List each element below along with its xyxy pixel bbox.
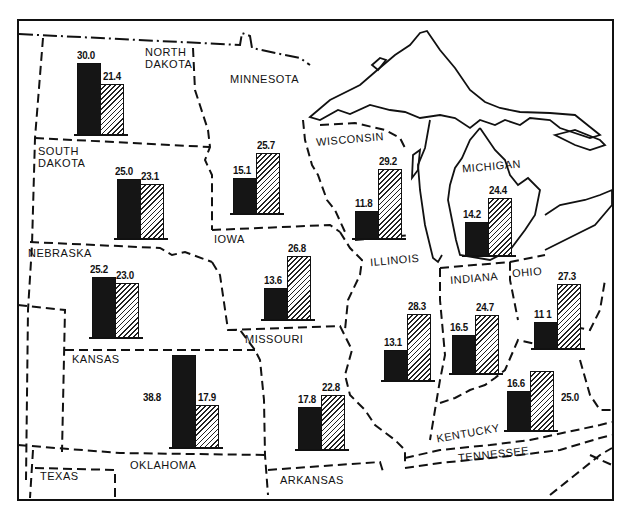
label-south-dakota: SOUTH DAKOTA [38,145,85,169]
bar-baseline [462,255,516,257]
value-solid: 15.1 [233,164,251,176]
label-texas: TEXAS [40,470,79,482]
bar-solid [355,211,379,239]
bar-solid [264,288,288,320]
bar-hatched [195,405,219,448]
value-solid: 16.6 [507,377,525,389]
label-iowa: IOWA [214,233,245,245]
value-hatched: 26.8 [288,242,306,254]
bar-hatched [557,284,581,349]
bar-hatched [140,184,164,239]
value-hatched: 29.2 [379,155,397,167]
bar-baseline [295,449,349,451]
value-hatched: 23.0 [116,269,134,281]
bar-solid [298,407,322,450]
value-hatched: 21.4 [103,70,121,82]
bar-baseline [261,319,315,321]
value-hatched: 27.3 [558,270,576,282]
bar-solid [452,335,476,374]
bar-baseline [504,430,558,432]
label-oklahoma: OKLAHOMA [130,459,196,471]
value-hatched: 22.8 [322,381,340,393]
value-solid: 30.0 [77,49,95,61]
bar-solid [465,222,489,256]
bar-hatched [100,84,124,135]
bar-baseline [381,380,435,382]
bar-baseline [230,213,284,215]
bar-solid [384,350,408,381]
label-arkansas: ARKANSAS [280,474,344,486]
bar-hatched [287,256,311,320]
value-hatched: 23.1 [141,170,159,182]
value-solid: 13.1 [384,336,402,348]
value-solid: 16.5 [450,321,468,333]
value-solid: 25.0 [115,165,133,177]
bar-solid [92,277,116,338]
bar-solid [534,322,558,349]
bar-baseline [449,373,503,375]
value-hatched: 24.7 [476,301,494,313]
value-solid: 14.2 [463,208,481,220]
bar-hatched [256,153,280,214]
bar-baseline [74,134,128,136]
value-solid: 17.8 [298,393,316,405]
bar-baseline [114,238,168,240]
bar-hatched [530,371,554,431]
bar-baseline [169,447,223,449]
value-solid: 11 1 [534,308,551,320]
value-hatched: 25.0 [561,391,579,403]
bar-hatched [115,283,139,338]
value-solid: 11.8 [355,197,372,209]
bar-baseline [89,337,143,339]
bar-hatched [475,315,499,374]
label-missouri: MISSOURI [245,333,303,345]
value-hatched: 24.4 [489,184,507,196]
bar-solid [233,178,257,214]
value-hatched: 28.3 [408,300,426,312]
value-solid: 13.6 [264,274,282,286]
label-nebraska: NEBRASKA [28,247,92,259]
label-north-dakota: NORTH DAKOTA [145,46,192,70]
bar-baseline [352,238,406,240]
bar-solid [172,355,196,448]
bar-hatched [321,395,345,450]
bar-baseline [531,348,585,350]
value-solid: 25.2 [90,263,108,275]
bar-solid [117,179,141,239]
bar-hatched [488,198,512,256]
label-minnesota: MINNESOTA [230,73,299,85]
value-hatched: 25.7 [257,139,275,151]
value-hatched: 17.9 [198,391,216,403]
value-solid: 38.8 [143,391,161,403]
bar-solid [507,391,531,431]
bar-hatched [378,169,402,239]
bar-solid [77,63,101,135]
label-kansas: KANSAS [72,353,120,365]
bar-hatched [407,314,431,381]
